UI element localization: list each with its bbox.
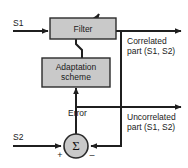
- filter-label: Filter: [74, 24, 93, 34]
- output-label-uncorrelated-line2: part (S1, S2): [127, 122, 175, 132]
- input-label-s1: S1: [13, 18, 24, 28]
- block-diagram: Filter Adaptation scheme Σ S1 S2 + – Err…: [0, 0, 188, 168]
- sigma-label: Σ: [72, 138, 80, 153]
- adaptation-label-line2: scheme: [61, 72, 91, 82]
- block-adaptation-scheme[interactable]: Adaptation scheme: [42, 58, 110, 87]
- wire-adaptation-to-filter: [76, 39, 82, 58]
- signal-label-error: Error: [68, 108, 87, 118]
- input-label-s2: S2: [13, 132, 24, 142]
- diagram-canvas: Filter Adaptation scheme Σ S1 S2 + – Err…: [0, 0, 188, 168]
- block-filter[interactable]: Filter: [50, 18, 116, 39]
- output-label-uncorrelated-line1: Uncorrelated: [127, 112, 176, 122]
- plus-sign: +: [57, 150, 62, 160]
- output-label-correlated-line2: part (S1, S2): [127, 46, 175, 56]
- minus-sign: –: [89, 150, 94, 160]
- output-label-correlated-line1: Correlated: [127, 36, 167, 46]
- adaptation-label-line1: Adaptation: [56, 62, 97, 72]
- block-summing-junction[interactable]: Σ: [64, 134, 88, 158]
